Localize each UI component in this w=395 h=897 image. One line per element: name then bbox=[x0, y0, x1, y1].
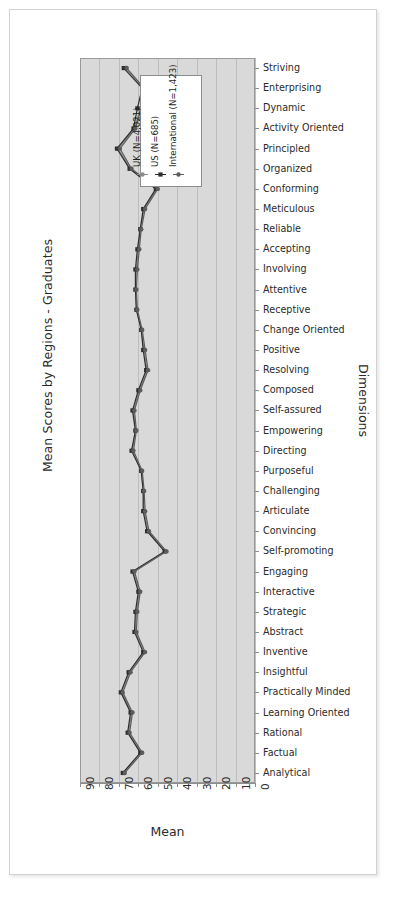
y-tick-mark bbox=[255, 149, 259, 150]
y-tick-mark bbox=[255, 451, 259, 452]
x-tick-mark bbox=[99, 783, 100, 787]
y-tick-label: Interactive bbox=[263, 587, 315, 597]
y-tick-label: Involving bbox=[263, 264, 307, 274]
data-point bbox=[118, 146, 122, 150]
data-point bbox=[124, 66, 128, 70]
x-tick-mark bbox=[216, 783, 217, 787]
x-tick-mark bbox=[80, 783, 81, 787]
y-tick-label: Self-promoting bbox=[263, 546, 333, 556]
legend-marker-icon bbox=[169, 169, 180, 180]
y-tick-label: Rational bbox=[263, 728, 302, 738]
y-tick-label: Positive bbox=[263, 345, 300, 355]
x-tick-mark bbox=[255, 783, 256, 787]
y-tick-label: Attentive bbox=[263, 285, 307, 295]
x-tick-mark bbox=[177, 783, 178, 787]
y-tick-mark bbox=[255, 410, 259, 411]
x-tick-label: 50 bbox=[162, 764, 174, 790]
data-point bbox=[135, 267, 139, 271]
x-tick-label: 70 bbox=[123, 764, 135, 790]
y-tick-label: Resolving bbox=[263, 365, 309, 375]
y-tick-mark bbox=[255, 249, 259, 250]
y-tick-label: Conforming bbox=[263, 184, 319, 194]
data-point bbox=[127, 730, 131, 734]
data-point bbox=[131, 449, 135, 453]
y-tick-label: Composed bbox=[263, 385, 314, 395]
data-point bbox=[135, 610, 139, 614]
y-tick-mark bbox=[255, 330, 259, 331]
y-tick-mark bbox=[255, 128, 259, 129]
x-tick-label: 10 bbox=[240, 764, 252, 790]
y-tick-label: Dynamic bbox=[263, 103, 305, 113]
y-tick-label: Challenging bbox=[263, 486, 320, 496]
y-tick-label: Striving bbox=[263, 63, 300, 73]
x-tick-mark bbox=[119, 783, 120, 787]
data-point bbox=[164, 549, 168, 553]
data-point bbox=[140, 328, 144, 332]
legend-label: UK (N=4,021) bbox=[132, 107, 142, 167]
x-tick-label: 80 bbox=[103, 764, 115, 790]
y-tick-mark bbox=[255, 511, 259, 512]
data-point bbox=[140, 751, 144, 755]
data-point bbox=[140, 469, 144, 473]
data-point bbox=[132, 569, 136, 573]
y-tick-mark bbox=[255, 672, 259, 673]
legend-label: US (N=685) bbox=[150, 116, 160, 167]
x-tick-label: 30 bbox=[201, 764, 213, 790]
y-tick-label: Analytical bbox=[263, 768, 310, 778]
data-point bbox=[135, 308, 139, 312]
data-point bbox=[138, 388, 142, 392]
y-tick-label: Insightful bbox=[263, 667, 308, 677]
y-tick-label: Learning Oriented bbox=[263, 708, 350, 718]
chart-figure: Mean Scores by Regions - Graduates Mean … bbox=[18, 18, 370, 868]
y-tick-mark bbox=[255, 169, 259, 170]
y-tick-mark bbox=[255, 592, 259, 593]
x-tick-mark bbox=[236, 783, 237, 787]
data-point bbox=[138, 589, 142, 593]
data-point bbox=[146, 368, 150, 372]
legend-entry: US (N=685) bbox=[149, 77, 165, 181]
data-point bbox=[139, 227, 143, 231]
data-point bbox=[142, 489, 146, 493]
y-tick-label: Change Oriented bbox=[263, 325, 345, 335]
x-tick-mark bbox=[158, 783, 159, 787]
y-tick-mark bbox=[255, 108, 259, 109]
x-tick-label: 90 bbox=[84, 764, 96, 790]
y-tick-mark bbox=[255, 491, 259, 492]
y-tick-mark bbox=[255, 209, 259, 210]
y-tick-label: Organized bbox=[263, 164, 312, 174]
data-point bbox=[128, 670, 132, 674]
data-point bbox=[143, 650, 147, 654]
x-tick-label: 20 bbox=[220, 764, 232, 790]
x-tick-label: 60 bbox=[142, 764, 154, 790]
data-point bbox=[137, 247, 141, 251]
y-tick-mark bbox=[255, 229, 259, 230]
y-tick-label: Directing bbox=[263, 446, 307, 456]
data-point bbox=[132, 408, 136, 412]
y-tick-mark bbox=[255, 390, 259, 391]
y-tick-mark bbox=[255, 612, 259, 613]
legend: UK (N=4,021)US (N=685)International (N=1… bbox=[140, 75, 202, 187]
x-gridline bbox=[255, 58, 256, 783]
y-tick-label: Principled bbox=[263, 144, 310, 154]
legend-marker-icon bbox=[133, 169, 144, 180]
y-tick-mark bbox=[255, 88, 259, 89]
data-point bbox=[147, 529, 151, 533]
data-point bbox=[121, 690, 125, 694]
y-tick-label: Engaging bbox=[263, 567, 308, 577]
y-tick-label: Self-assured bbox=[263, 405, 322, 415]
y-tick-label: Articulate bbox=[263, 506, 310, 516]
y-tick-label: Meticulous bbox=[263, 204, 315, 214]
data-point bbox=[143, 348, 147, 352]
y-tick-mark bbox=[255, 310, 259, 311]
y-tick-label: Practically Minded bbox=[263, 687, 350, 697]
legend-label: International (N=1,423) bbox=[168, 64, 178, 167]
data-point bbox=[134, 428, 138, 432]
y-tick-label: Factual bbox=[263, 748, 297, 758]
chart-page: Mean Scores by Regions - Graduates Mean … bbox=[0, 0, 395, 897]
y-tick-label: Reliable bbox=[263, 224, 301, 234]
data-point bbox=[156, 187, 160, 191]
legend-marker-icon bbox=[151, 169, 162, 180]
y-tick-mark bbox=[255, 189, 259, 190]
y-tick-label: Convincing bbox=[263, 526, 316, 536]
data-point bbox=[143, 509, 147, 513]
